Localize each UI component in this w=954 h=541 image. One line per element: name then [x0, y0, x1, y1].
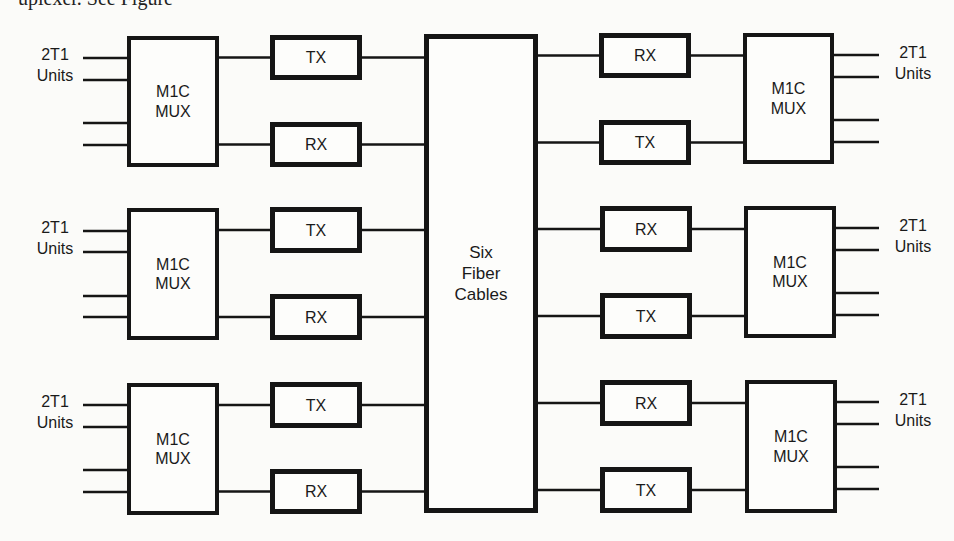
units-label: Units [37, 240, 73, 257]
m1c-mux-right-2-label: M1C [773, 254, 807, 271]
m1c-mux-left-1: M1CMUX [129, 38, 217, 165]
m1c-mux-left-3-outline [129, 385, 217, 513]
six-fiber-cables-box-label: Fiber [462, 264, 501, 283]
m1c-mux-right-3: M1CMUX [747, 382, 835, 511]
tx-module-right-2: TX [603, 296, 690, 337]
rx-module-left-1-label: RX [305, 136, 328, 153]
m1c-mux-right-2-label: MUX [772, 273, 808, 290]
tx-module-right-1: TX [602, 123, 689, 163]
tx-module-right-3: TX [603, 470, 690, 511]
rx-module-right-1: RX [602, 36, 689, 76]
six-fiber-cables-box-label: Cables [455, 285, 508, 304]
m1c-mux-right-1-label: MUX [771, 100, 807, 117]
m1c-mux-left-2-outline [129, 210, 217, 338]
tx-module-left-2-label: TX [306, 222, 327, 239]
units-label: 2T1 [899, 44, 927, 61]
m1c-mux-right-1-outline [745, 35, 832, 162]
m1c-mux-left-3: M1CMUX [129, 385, 217, 513]
units-label: 2T1 [41, 393, 69, 410]
boxes-layer: 2T1UnitsM1CMUXTXRX2T1UnitsM1CMUXTXRX2T1U… [37, 35, 931, 513]
m1c-mux-left-2: M1CMUX [129, 210, 217, 338]
m1c-mux-left-2-label: M1C [156, 256, 190, 273]
m1c-mux-right-1-label: M1C [772, 80, 806, 97]
units-label: Units [895, 412, 931, 429]
units-label: 2T1 [899, 391, 927, 408]
rx-module-left-2-label: RX [305, 309, 328, 326]
units-label: Units [895, 238, 931, 255]
tx-module-right-2-label: TX [636, 308, 657, 325]
m1c-mux-left-1-outline [129, 38, 217, 165]
rx-module-right-2: RX [603, 209, 690, 250]
tx-module-right-1-label: TX [635, 134, 656, 151]
m1c-mux-right-3-label: MUX [773, 448, 809, 465]
m1c-mux-right-2: M1CMUX [746, 208, 834, 336]
m1c-mux-left-1-label: MUX [155, 103, 191, 120]
rx-module-left-3: RX [273, 472, 360, 512]
rx-module-right-2-label: RX [635, 221, 658, 238]
six-fiber-cables-box: SixFiberCables [427, 37, 536, 511]
units-label: Units [37, 67, 73, 84]
m1c-mux-left-3-label: MUX [155, 450, 191, 467]
rx-module-right-1-label: RX [634, 47, 657, 64]
units-label: Units [895, 65, 931, 82]
m1c-mux-right-1: M1CMUX [745, 35, 832, 162]
units-label: Units [37, 414, 73, 431]
m1c-mux-right-2-outline [746, 208, 834, 336]
units-label: 2T1 [41, 46, 69, 63]
tx-module-left-1: TX [273, 38, 360, 78]
rx-module-right-3-label: RX [635, 395, 658, 412]
m1c-mux-left-3-label: M1C [156, 431, 190, 448]
m1c-mux-right-3-outline [747, 382, 835, 511]
six-fiber-cables-box-label: Six [469, 243, 493, 262]
rx-module-right-3: RX [603, 383, 690, 424]
units-label: 2T1 [41, 219, 69, 236]
units-label: 2T1 [899, 217, 927, 234]
m1c-mux-left-2-label: MUX [155, 275, 191, 292]
tx-module-right-3-label: TX [636, 482, 657, 499]
rx-module-left-3-label: RX [305, 483, 328, 500]
tx-module-left-1-label: TX [306, 49, 327, 66]
m1c-mux-left-1-label: M1C [156, 83, 190, 100]
rx-module-left-2: RX [273, 297, 360, 338]
tx-module-left-2: TX [273, 210, 360, 251]
rx-module-left-1: RX [273, 125, 360, 165]
fiber-mux-diagram: 2T1UnitsM1CMUXTXRX2T1UnitsM1CMUXTXRX2T1U… [0, 0, 954, 541]
tx-module-left-3: TX [273, 385, 360, 426]
tx-module-left-3-label: TX [306, 397, 327, 414]
m1c-mux-right-3-label: M1C [774, 428, 808, 445]
